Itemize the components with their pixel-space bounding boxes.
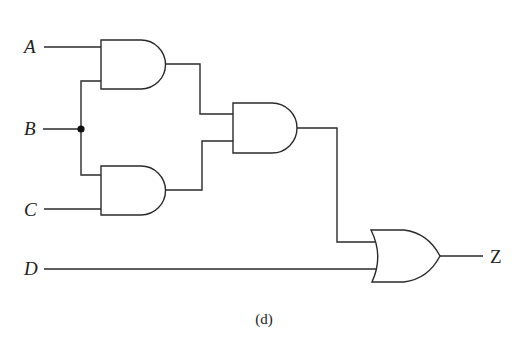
or-gate [371,230,440,282]
wire-and3-out [297,128,378,242]
input-label-c: C [24,199,37,220]
logic-circuit-diagram: A B C D Z (d) [0,0,530,359]
and-gate-3 [233,103,297,153]
wire-and2-out [166,141,235,190]
and-gate-2 [101,166,166,215]
junction-dot-b [77,125,84,132]
output-label-z: Z [490,246,502,267]
and-gate-1 [101,40,166,89]
wire-and1-out [166,64,235,114]
figure-caption: (d) [255,311,273,328]
input-label-d: D [23,258,38,279]
input-label-b: B [24,118,36,139]
input-label-a: A [22,36,36,57]
